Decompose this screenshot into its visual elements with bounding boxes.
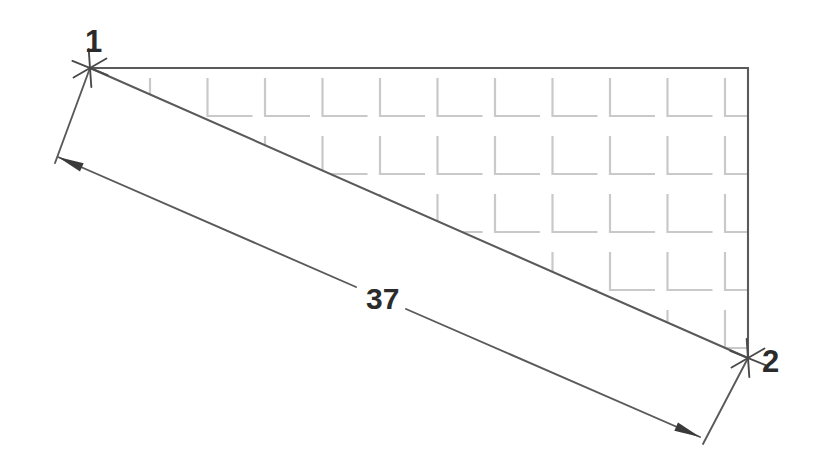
hatch-bracket <box>668 136 713 174</box>
hatch-bracket <box>668 368 713 406</box>
hatch-bracket <box>208 252 253 290</box>
hatch-bracket <box>495 78 540 116</box>
dimension-line-segment-right <box>406 309 700 437</box>
hatch-bracket <box>208 368 253 406</box>
hatch-pattern-fill <box>150 78 770 406</box>
hatch-bracket <box>380 136 425 174</box>
hatch-bracket <box>323 368 368 406</box>
vertex-2-cross-mark-icon[interactable] <box>730 339 765 377</box>
hatch-bracket <box>323 310 368 348</box>
hatch-bracket <box>380 78 425 116</box>
hatch-bracket <box>610 136 655 174</box>
hatch-bracket <box>208 136 253 174</box>
hatch-bracket <box>380 310 425 348</box>
dimension-value-label: 37 <box>366 282 399 315</box>
arrowhead-end-icon <box>674 422 700 437</box>
vertex-2-label: 2 <box>762 344 779 379</box>
hatch-bracket <box>208 310 253 348</box>
hatch-bracket <box>208 194 253 232</box>
hatch-bracket <box>553 310 598 348</box>
hatch-bracket <box>495 252 540 290</box>
hatch-bracket <box>265 310 310 348</box>
hatch-bracket <box>553 194 598 232</box>
hatch-bracket <box>610 78 655 116</box>
hatch-bracket <box>668 194 713 232</box>
hatch-bracket <box>668 310 713 348</box>
dimension-line-segment-left <box>58 157 356 287</box>
hatch-bracket <box>668 252 713 290</box>
hatch-bracket <box>610 194 655 232</box>
hatch-bracket <box>438 194 483 232</box>
hatch-bracket <box>380 368 425 406</box>
hatch-bracket <box>553 78 598 116</box>
vertex-1-label: 1 <box>85 24 102 59</box>
hatch-bracket <box>323 194 368 232</box>
extension-line-vertex-2 <box>703 358 748 444</box>
hatch-bracket <box>438 136 483 174</box>
arrowhead-start-icon <box>58 157 84 172</box>
hatch-bracket <box>495 194 540 232</box>
hatch-bracket <box>438 252 483 290</box>
hatch-bracket <box>438 368 483 406</box>
hatch-bracket <box>323 136 368 174</box>
hatch-bracket <box>150 310 195 348</box>
hatch-bracket <box>438 78 483 116</box>
hatch-bracket <box>438 310 483 348</box>
hatch-bracket <box>610 252 655 290</box>
hatch-bracket <box>265 194 310 232</box>
hatch-bracket <box>323 252 368 290</box>
extension-lines-group <box>55 68 748 444</box>
hatch-bracket <box>553 368 598 406</box>
hatch-bracket <box>668 78 713 116</box>
hatch-bracket <box>553 136 598 174</box>
hatch-bracket <box>265 368 310 406</box>
hatch-bracket <box>610 310 655 348</box>
hatch-bracket <box>553 252 598 290</box>
hatch-bracket <box>208 78 253 116</box>
hatch-bracket <box>150 136 195 174</box>
hatch-bracket <box>150 252 195 290</box>
cad-drawing: 1 2 37 <box>0 0 822 471</box>
hatch-bracket <box>495 310 540 348</box>
hatch-bracket <box>150 368 195 406</box>
hatch-bracket <box>323 78 368 116</box>
hatch-bracket <box>495 136 540 174</box>
hatch-bracket <box>495 368 540 406</box>
technical-drawing-canvas: 1 2 37 <box>0 0 822 471</box>
extension-line-vertex-1 <box>55 68 90 163</box>
hatch-bracket <box>265 78 310 116</box>
